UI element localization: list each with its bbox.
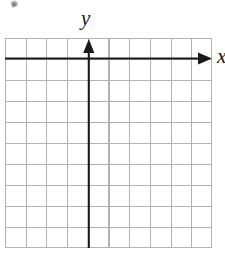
x-axis-label: x	[217, 46, 225, 67]
grid-lines	[5, 38, 212, 248]
y-axis-label: y	[81, 8, 90, 29]
coordinate-grid-figure: y x	[0, 0, 225, 254]
grid-area	[5, 38, 212, 248]
scan-speck-icon	[10, 0, 19, 8]
